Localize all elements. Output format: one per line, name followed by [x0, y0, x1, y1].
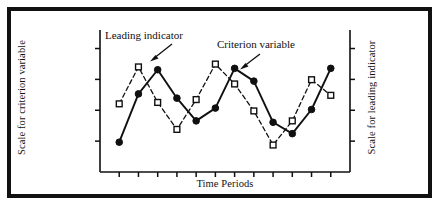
series-criterion-variable — [116, 65, 334, 145]
criterion-variable-point-2 — [135, 91, 142, 98]
series-leading-indicator — [116, 61, 333, 148]
leading-indicator-point-5 — [193, 97, 199, 103]
leading-indicator-point-9 — [270, 142, 276, 148]
y-axis-left-label: Scale for criterion variable — [16, 23, 27, 173]
criterion-variable-point-1 — [116, 139, 123, 146]
criterion-variable-point-9 — [270, 119, 277, 126]
criterion-variable-point-12 — [327, 65, 334, 72]
leading-indicator-point-2 — [136, 64, 142, 70]
criterion-variable-point-4 — [174, 95, 181, 102]
criterion-variable-point-7 — [231, 65, 238, 72]
criterion-variable-point-5 — [193, 118, 200, 125]
leading-indicator-point-8 — [251, 108, 257, 114]
chart-axes — [100, 30, 350, 172]
criterion-variable-point-3 — [154, 66, 161, 73]
leading-indicator-point-4 — [174, 127, 180, 133]
leading-indicator-point-10 — [289, 118, 295, 124]
leading-indicator-point-12 — [328, 92, 334, 98]
leading-indicator-line — [119, 64, 331, 145]
criterion-variable-point-8 — [251, 78, 258, 85]
criterion-variable-point-11 — [308, 106, 315, 113]
annotation-criterion-variable: Criterion variable — [217, 38, 295, 50]
chart-tick-marks — [95, 49, 355, 177]
x-axis-label: Time Periods — [100, 178, 350, 189]
annotation-leading-indicator: Leading indicator — [105, 29, 183, 41]
leading-indicator-point-11 — [309, 77, 315, 83]
leading-indicator-point-3 — [155, 100, 161, 106]
leading-indicator-point-1 — [116, 101, 122, 107]
leading-indicator-point-6 — [212, 61, 218, 67]
figure-container: Scale for criterion variable Scale for l… — [0, 0, 447, 215]
criterion-variable-point-10 — [289, 130, 296, 137]
y-axis-right-label: Scale for leading indicator — [366, 23, 377, 173]
leading-indicator-point-7 — [232, 81, 238, 87]
criterion-variable-point-6 — [212, 105, 219, 112]
